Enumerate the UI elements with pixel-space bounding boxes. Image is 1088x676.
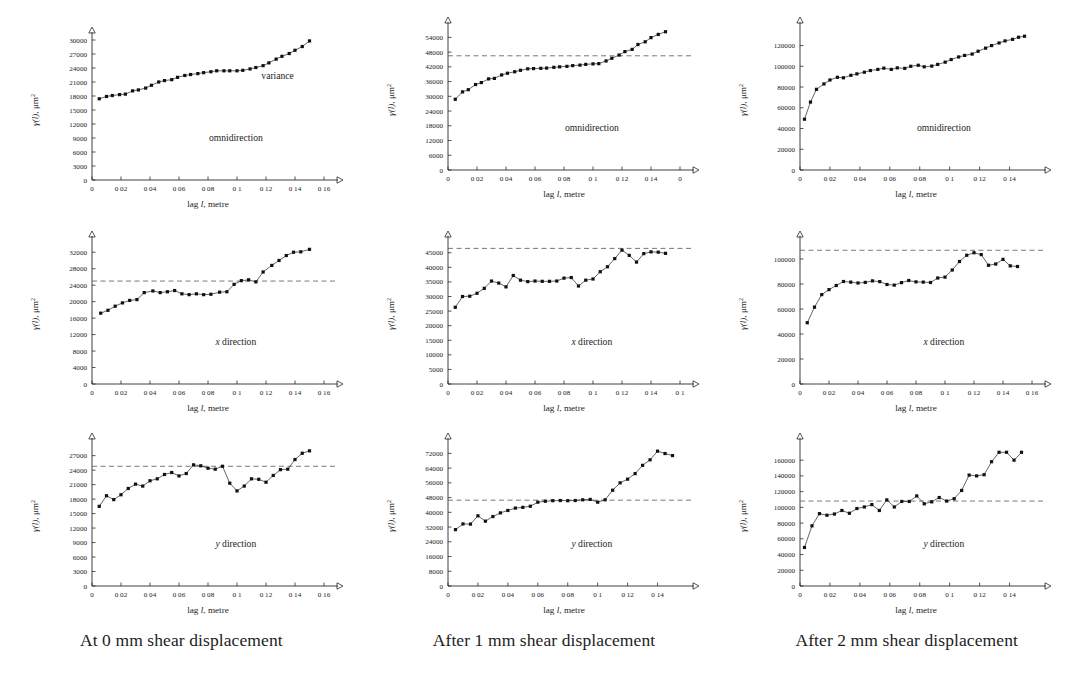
data-point	[247, 278, 250, 281]
panel-r1c1-svg: 0300060009000120001500018000210002400027…	[22, 18, 385, 220]
data-point	[111, 94, 114, 97]
x-tick-label: 0 12	[260, 389, 273, 397]
data-point	[192, 463, 195, 466]
x-tick-label: 0	[678, 175, 682, 183]
y-axis-title: γ(l), μm2	[738, 84, 748, 116]
x-tick-label: 0 14	[289, 185, 302, 193]
x-tick-label: 0	[798, 591, 802, 599]
data-point	[1009, 264, 1012, 267]
data-point	[613, 257, 616, 260]
data-point	[474, 83, 477, 86]
y-tick-label: 16000	[69, 315, 87, 323]
x-axis-ticks: 00 020 040 060 080 10 120 140 16	[798, 381, 1038, 397]
data-point	[649, 250, 652, 253]
x-tick-label: 0 04	[144, 185, 157, 193]
data-point	[631, 48, 634, 51]
data-point	[262, 270, 265, 273]
data-point	[506, 509, 509, 512]
data-point	[917, 64, 920, 67]
x-tick-label: 0 12	[260, 185, 273, 193]
y-tick-label: 30000	[425, 293, 443, 301]
data-point	[514, 506, 517, 509]
direction-annotation: y direction	[922, 538, 964, 549]
series-markers	[454, 450, 674, 532]
y-tick-label: 18000	[69, 93, 87, 101]
data-point	[235, 489, 238, 492]
data-point	[642, 252, 645, 255]
data-point	[163, 473, 166, 476]
data-point	[480, 81, 483, 84]
data-point	[490, 279, 493, 282]
data-point	[240, 279, 243, 282]
data-point	[150, 84, 153, 87]
axes	[89, 27, 343, 183]
data-point	[170, 471, 173, 474]
data-point	[893, 284, 896, 287]
y-tick-label: 15000	[69, 107, 87, 115]
y-tick-label: 40000	[425, 509, 443, 517]
data-point	[664, 252, 667, 255]
data-point	[262, 64, 265, 67]
data-point	[308, 449, 311, 452]
x-tick-label: 0 14	[645, 389, 658, 397]
data-point	[900, 500, 903, 503]
x-tick-label: 0 12	[973, 175, 986, 183]
data-point	[98, 505, 101, 508]
y-tick-label: 140000	[774, 472, 796, 480]
data-point	[526, 67, 529, 70]
x-tick-label: 0 14	[289, 591, 302, 599]
data-point	[468, 295, 471, 298]
data-point	[855, 72, 858, 75]
data-point	[870, 503, 873, 506]
data-point	[221, 465, 224, 468]
data-point	[980, 253, 983, 256]
y-tick-label: 9000	[73, 539, 88, 547]
data-point	[279, 468, 282, 471]
x-tick-label: 0 16	[318, 389, 331, 397]
data-point	[548, 280, 551, 283]
data-point	[663, 452, 666, 455]
data-point	[810, 524, 813, 527]
data-point	[144, 86, 147, 89]
data-point	[815, 88, 818, 91]
data-point	[476, 514, 479, 517]
x-tick-label: 0 06	[884, 175, 897, 183]
direction-annotation: y direction	[214, 538, 256, 549]
data-point	[896, 66, 899, 69]
y-axis-title: γ(l), μm2	[386, 298, 396, 330]
data-point	[301, 452, 304, 455]
panel-r3c2-svg: 0800016000240003200040000480005600064000…	[378, 424, 741, 626]
y-tick-label: 35000	[425, 278, 443, 286]
data-point	[159, 291, 162, 294]
y-tick-label: 6000	[429, 152, 444, 160]
x-tick-label: 0 16	[1026, 389, 1039, 397]
y-tick-label: 42000	[425, 63, 443, 71]
x-tick-label: 0 04	[144, 389, 157, 397]
data-point	[855, 507, 858, 510]
data-point	[1016, 265, 1019, 268]
x-tick-label: 0 1	[945, 591, 954, 599]
panel-r2c3-svg: 02000040000600008000010000000 020 040 06…	[730, 222, 1088, 424]
data-point	[929, 281, 932, 284]
data-point	[545, 66, 548, 69]
data-point	[965, 254, 968, 257]
y-tick-label: 24000	[425, 108, 443, 116]
data-point	[641, 464, 644, 467]
data-point	[173, 289, 176, 292]
data-point	[885, 498, 888, 501]
x-tick-label: 0 08	[562, 591, 575, 599]
panel-r3c3: 0200004000060000800001000001200001400001…	[730, 424, 1088, 626]
x-tick-label: 0 06	[532, 591, 545, 599]
data-point	[148, 479, 151, 482]
data-point	[156, 477, 159, 480]
panel-r2c3: 02000040000600008000010000000 020 040 06…	[730, 222, 1088, 424]
data-point	[863, 71, 866, 74]
data-point	[163, 79, 166, 82]
panel-r2c2-svg: 0500010000150002000025000300003500040000…	[378, 222, 741, 424]
data-point	[968, 474, 971, 477]
data-point	[250, 477, 253, 480]
y-tick-label: 16000	[425, 553, 443, 561]
data-point	[914, 280, 917, 283]
y-tick-label: 3000	[73, 163, 88, 171]
y-axis-title: γ(l), μm2	[386, 84, 396, 116]
